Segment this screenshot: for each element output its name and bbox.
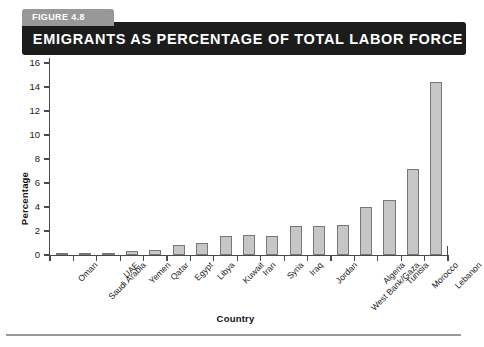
x-tick <box>190 256 191 261</box>
y-tick <box>44 110 50 111</box>
x-tick <box>213 256 214 261</box>
bar <box>383 200 395 255</box>
bar <box>173 245 185 255</box>
page-edge-line <box>6 334 461 336</box>
bar <box>220 236 232 255</box>
bar <box>266 236 278 255</box>
x-tick <box>354 256 355 261</box>
x-tick <box>120 256 121 261</box>
y-tick <box>44 62 50 63</box>
x-tick <box>143 256 144 261</box>
x-tick-label: Egypt <box>192 260 215 283</box>
bar <box>149 250 161 255</box>
x-tick-label: Jordan <box>334 260 360 286</box>
bar <box>430 82 442 255</box>
y-tick-label: 4 <box>16 202 40 212</box>
x-tick <box>377 256 378 261</box>
bar <box>102 253 114 256</box>
plot-area: 0246810121416 <box>50 63 448 255</box>
x-tick-label: Oman <box>76 260 100 284</box>
y-tick-label: 6 <box>16 178 40 188</box>
x-tick-label: Iran <box>260 260 278 278</box>
bar <box>79 253 91 256</box>
y-tick <box>44 182 50 183</box>
x-tick-label: Libya <box>215 260 237 282</box>
x-tick <box>237 256 238 261</box>
x-tick <box>330 256 331 261</box>
y-tick <box>44 206 50 207</box>
bar <box>243 235 255 255</box>
bar <box>196 243 208 255</box>
bar <box>337 225 349 255</box>
bar <box>360 207 372 255</box>
y-tick <box>44 134 50 135</box>
y-tick-label: 2 <box>16 226 40 236</box>
y-tick <box>44 158 50 159</box>
y-tick-label: 10 <box>16 130 40 140</box>
y-tick-label: 12 <box>16 106 40 116</box>
x-axis-title: Country <box>0 313 471 324</box>
x-tick-label: Iraq <box>307 260 325 278</box>
figure-header: EMIGRANTS AS PERCENTAGE OF TOTAL LABOR F… <box>22 9 466 55</box>
x-axis-line <box>49 255 449 256</box>
x-tick-label: Qatar <box>169 260 191 282</box>
y-tick <box>44 86 50 87</box>
bar <box>56 253 68 256</box>
x-tick-label: Syria <box>285 260 306 281</box>
x-axis-right-cap <box>447 246 448 256</box>
x-tick <box>96 256 97 261</box>
figure-title-banner: EMIGRANTS AS PERCENTAGE OF TOTAL LABOR F… <box>22 22 466 55</box>
figure-number-tab: FIGURE 4.8 <box>22 9 114 26</box>
x-tick <box>284 256 285 261</box>
bar <box>407 169 419 255</box>
bar <box>290 226 302 255</box>
y-tick-label: 14 <box>16 82 40 92</box>
x-tick-label: Yemen <box>147 260 173 286</box>
x-tick <box>49 256 50 261</box>
chart-area: Percentage 0246810121416 OmanSaudi Arabi… <box>0 55 471 347</box>
y-tick-label: 16 <box>16 58 40 68</box>
x-tick <box>73 256 74 261</box>
figure-number-label: FIGURE 4.8 <box>32 12 85 22</box>
y-tick-label: 0 <box>16 250 40 260</box>
x-tick <box>307 256 308 261</box>
bar <box>126 251 138 255</box>
figure-title: EMIGRANTS AS PERCENTAGE OF TOTAL LABOR F… <box>25 31 463 47</box>
y-tick <box>44 230 50 231</box>
bar <box>313 226 325 255</box>
x-tick <box>447 256 448 261</box>
y-tick-label: 8 <box>16 154 40 164</box>
